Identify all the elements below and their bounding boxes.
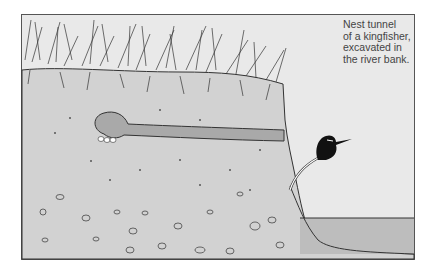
- river-water: [300, 218, 414, 254]
- caption-line: excavated in: [343, 42, 433, 54]
- caption-line: the river bank.: [343, 54, 433, 66]
- caption: Nest tunnel of a kingfisher, excavated i…: [343, 19, 433, 65]
- caption-line: Nest tunnel: [343, 19, 433, 31]
- kingfisher: [316, 135, 352, 160]
- eggs: [98, 137, 116, 143]
